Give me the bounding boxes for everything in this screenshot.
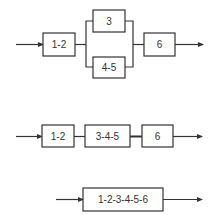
row1-label-6: 6 [157, 39, 163, 50]
row2-label-6: 6 [155, 131, 161, 142]
row2-label-1-2: 1-2 [51, 131, 66, 142]
row1-label-4-5: 4-5 [102, 62, 117, 73]
row2-label-3-4-5: 3-4-5 [96, 131, 120, 142]
row1-label-3: 3 [106, 16, 112, 27]
row1-label-1-2: 1-2 [52, 39, 67, 50]
row1-left-branch [86, 21, 93, 67]
row1-right-branch [125, 21, 133, 67]
reliability-block-diagram: 1-2 3 4-5 6 1-2 3-4-5 6 1-2-3-4-5-6 [0, 0, 211, 215]
row3-label-1-2-3-4-5-6: 1-2-3-4-5-6 [98, 194, 148, 205]
